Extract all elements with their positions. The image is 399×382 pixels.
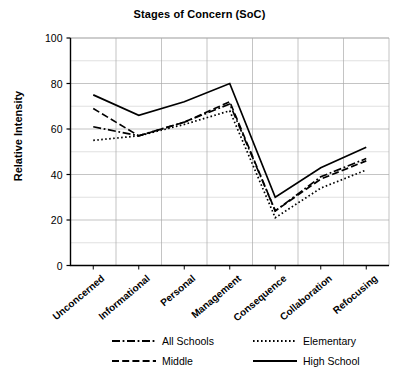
legend-item-middle[interactable]: Middle bbox=[112, 355, 193, 367]
chart-legend: All SchoolsElementaryMiddleHigh School bbox=[112, 335, 360, 367]
soc-line-chart: Stages of Concern (SoC) Relative Intensi… bbox=[0, 0, 399, 382]
series-line-all-schools bbox=[93, 104, 366, 211]
y-tick-label: 100 bbox=[45, 32, 63, 44]
series-line-high-school bbox=[93, 84, 366, 198]
legend-label: High School bbox=[303, 355, 360, 367]
x-tick-label: Refocusing bbox=[331, 273, 380, 316]
legend-item-high-school[interactable]: High School bbox=[253, 355, 360, 367]
y-tick-label: 0 bbox=[57, 260, 63, 272]
series-line-middle bbox=[93, 102, 366, 211]
y-tick-label: 20 bbox=[51, 214, 63, 226]
x-tick-labels: UnconcernedInformationalPersonalManageme… bbox=[51, 266, 380, 324]
y-tick-label: 40 bbox=[51, 169, 63, 181]
x-tick-label: Personal bbox=[158, 272, 198, 308]
y-tick-label: 60 bbox=[51, 123, 63, 135]
chart-canvas: 020406080100 UnconcernedInformationalPer… bbox=[0, 0, 399, 382]
y-tick-labels: 020406080100 bbox=[45, 32, 71, 272]
legend-item-all-schools[interactable]: All Schools bbox=[112, 335, 214, 347]
series-line-elementary bbox=[93, 111, 366, 218]
legend-label: All Schools bbox=[162, 335, 214, 347]
legend-item-elementary[interactable]: Elementary bbox=[253, 335, 357, 347]
legend-label: Middle bbox=[162, 355, 193, 367]
y-tick-label: 80 bbox=[51, 78, 63, 90]
gridlines-minor bbox=[71, 61, 390, 243]
legend-label: Elementary bbox=[303, 335, 357, 347]
data-series-group bbox=[93, 84, 366, 218]
